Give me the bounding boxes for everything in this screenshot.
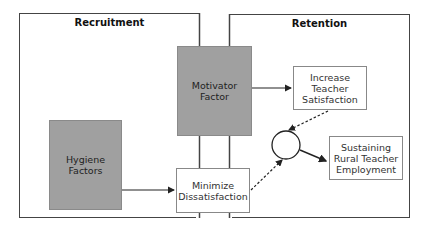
edge-increase-junction [289, 111, 328, 130]
hygiene-factors-label: Hygiene Factors [66, 154, 105, 176]
increase-satisfaction-label: Increase Teacher Satisfaction [302, 72, 358, 105]
minimize-dissatisfaction-box: Minimize Dissatisfaction [176, 168, 250, 213]
edge-junction-sustaining [300, 150, 326, 161]
hygiene-factors-box: Hygiene Factors [49, 120, 122, 210]
minimize-dissatisfaction-label: Minimize Dissatisfaction [178, 180, 248, 202]
motivator-factor-box: Motivator Factor [177, 46, 252, 136]
sustaining-employment-label: Sustaining Rural Teacher Employment [334, 142, 398, 175]
junction-circle [272, 131, 300, 159]
motivator-factor-label: Motivator Factor [192, 80, 237, 102]
edge-minimize-junction [251, 160, 282, 190]
sustaining-employment-box: Sustaining Rural Teacher Employment [329, 136, 403, 180]
increase-satisfaction-box: Increase Teacher Satisfaction [293, 66, 367, 110]
